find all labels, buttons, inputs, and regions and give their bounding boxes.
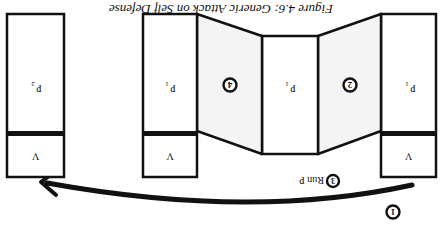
svg-text:2: 2 xyxy=(31,80,35,88)
return-cell-label: V xyxy=(404,151,412,162)
svg-text:P: P xyxy=(170,83,176,94)
svg-text:4: 4 xyxy=(227,80,232,90)
svg-text:V: V xyxy=(31,151,39,162)
svg-text:V: V xyxy=(166,151,174,162)
svg-text:3: 3 xyxy=(331,176,335,186)
svg-text:P: P xyxy=(290,83,296,94)
svg-text:1: 1 xyxy=(390,207,395,217)
svg-text:1: 1 xyxy=(405,80,409,88)
transfer-arrow xyxy=(41,173,412,202)
svg-text:P: P xyxy=(36,83,42,94)
middle-p1-box: P 1 xyxy=(262,36,318,154)
step-4-transition: 4 xyxy=(197,14,262,154)
svg-text:1: 1 xyxy=(165,80,169,88)
step-1-marker: 1 xyxy=(387,206,400,219)
step-3-run-label: 3 Run P xyxy=(299,175,339,187)
stack-p1-modified: V P 1 xyxy=(143,14,197,177)
svg-text:2: 2 xyxy=(347,80,352,90)
program-cell-label: P xyxy=(410,83,416,94)
stack-p1-original: V P 1 xyxy=(381,14,436,177)
svg-text:1: 1 xyxy=(285,80,289,88)
step-2-transition: 2 xyxy=(318,14,381,154)
stack-p2-target: V P 2 xyxy=(7,14,64,177)
svg-text:Run P: Run P xyxy=(299,175,324,186)
diagram-canvas: Figure 4.6: Generic Attack on Self Defen… xyxy=(0,0,442,225)
